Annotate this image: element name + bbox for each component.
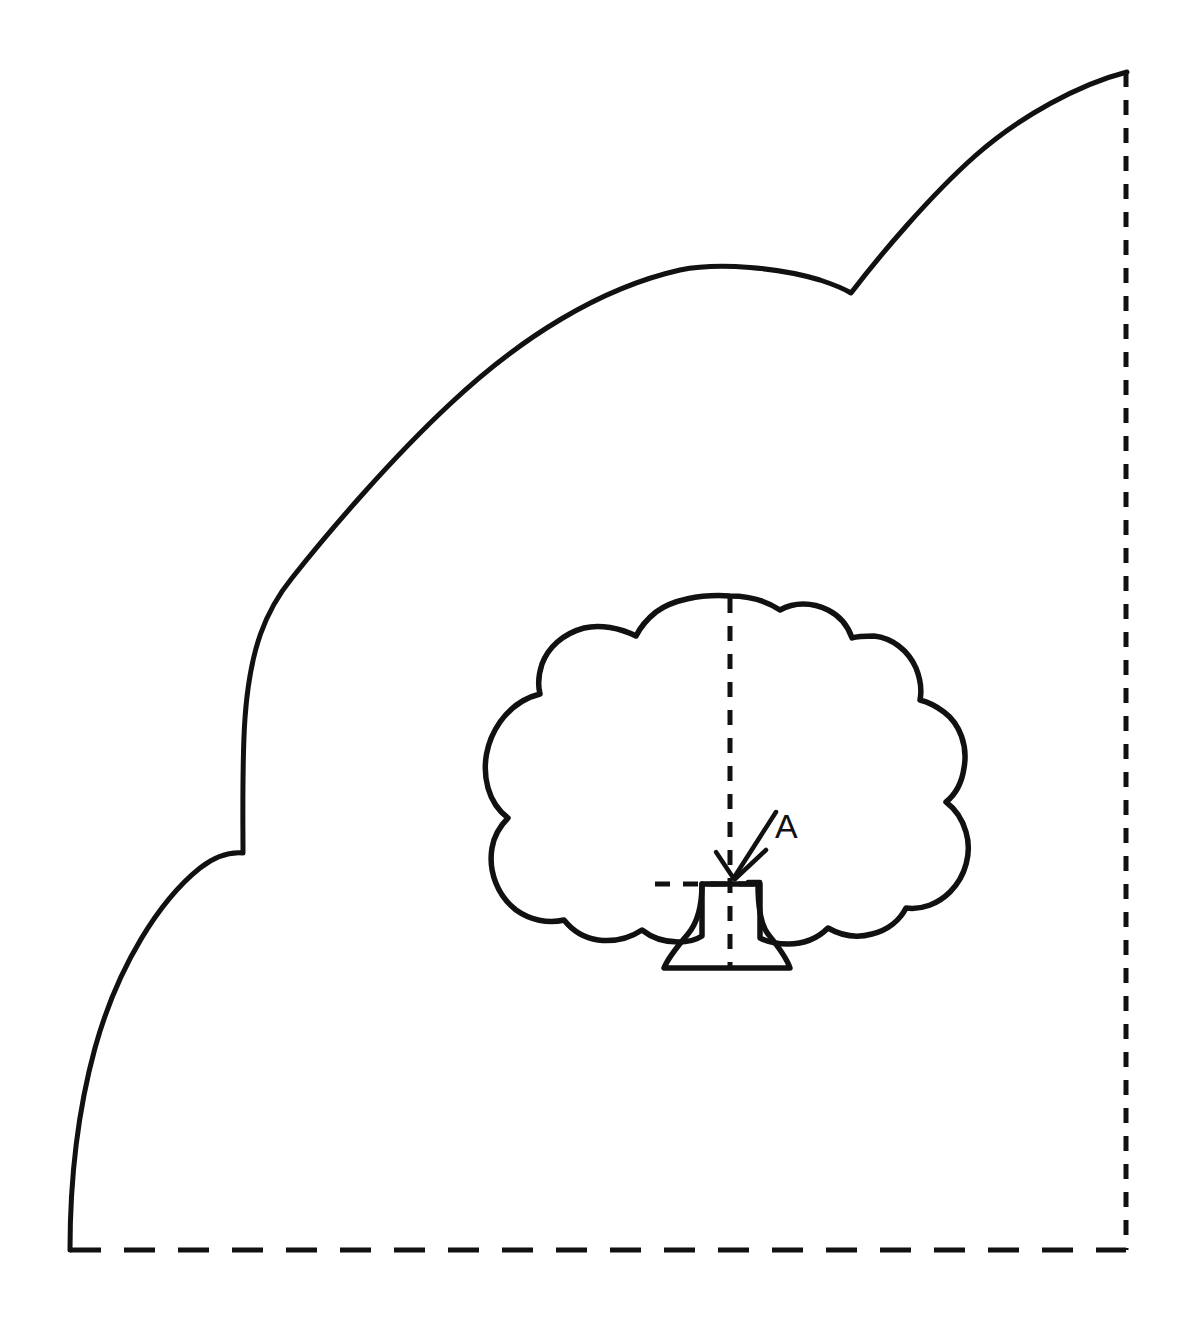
page-background [0, 0, 1183, 1322]
line-drawing-figure: A [0, 0, 1183, 1322]
drawing-canvas: A [0, 0, 1183, 1322]
point-a-label: A [775, 807, 798, 845]
